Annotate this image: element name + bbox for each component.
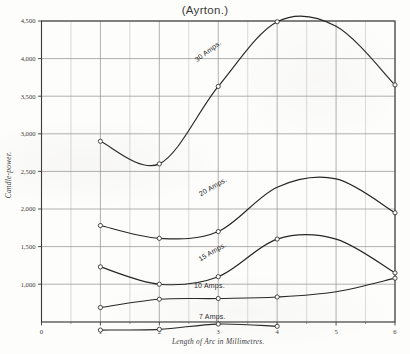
y-zero-label: 0	[40, 328, 44, 335]
data-point-marker	[216, 84, 220, 88]
data-point-marker	[157, 162, 161, 166]
plot-area: 1,0001,5002,0002,5003,0003,5004,0004,500…	[0, 0, 410, 354]
series-label: 10 Amps.	[194, 282, 225, 290]
data-point-marker	[98, 305, 102, 309]
x-tick-label: 3	[217, 328, 221, 335]
data-point-marker	[275, 324, 279, 328]
y-tick-label: 2,000	[21, 205, 37, 212]
series-label: 20 Amps.	[198, 176, 229, 198]
data-point-marker	[393, 271, 397, 275]
data-point-marker	[393, 83, 397, 87]
x-tick-label: 5	[334, 328, 338, 335]
data-point-marker	[98, 328, 102, 332]
data-point-marker	[393, 276, 397, 280]
y-tick-label: 2,500	[21, 168, 37, 175]
x-tick-label: 4	[276, 328, 280, 335]
data-point-marker	[98, 139, 102, 143]
data-point-marker	[216, 275, 220, 279]
y-tick-label: 3,000	[21, 130, 37, 137]
y-tick-label: 1,000	[21, 281, 37, 288]
data-point-marker	[98, 223, 102, 227]
data-point-marker	[157, 297, 161, 301]
y-tick-label: 3,500	[21, 93, 37, 100]
data-point-marker	[157, 327, 161, 331]
data-point-marker	[216, 322, 220, 326]
data-point-marker	[157, 282, 161, 286]
y-tick-label: 1,500	[21, 243, 37, 250]
data-point-marker	[275, 20, 279, 24]
data-point-marker	[216, 229, 220, 233]
x-axis-title: Length of Arc in Millimetres.	[171, 337, 265, 346]
y-tick-label: 4,000	[21, 55, 37, 62]
data-point-marker	[275, 237, 279, 241]
data-point-marker	[393, 211, 397, 215]
y-tick-labels: 1,0001,5002,0002,5003,0003,5004,0004,500…	[21, 17, 44, 335]
series-label: 15 Amps.	[197, 241, 228, 263]
x-tick-labels: 123456	[99, 328, 398, 335]
y-axis-title: Candle-power.	[4, 152, 13, 199]
x-tick-label: 6	[393, 328, 397, 335]
y-tick-label: 4,500	[21, 17, 37, 24]
data-point-marker	[98, 265, 102, 269]
chart-figure: (Ayrton.) 1,0001,5002,0002,5003,0003,500…	[0, 0, 410, 354]
data-point-marker	[216, 296, 220, 300]
series-curve	[100, 324, 277, 330]
data-point-marker	[275, 295, 279, 299]
data-point-marker	[157, 236, 161, 240]
series-label: 7 Amps.	[199, 313, 226, 321]
tick-marks	[38, 21, 395, 326]
